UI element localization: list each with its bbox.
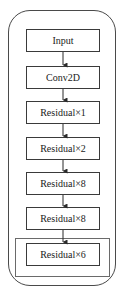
arrows-layer: [0, 0, 123, 294]
